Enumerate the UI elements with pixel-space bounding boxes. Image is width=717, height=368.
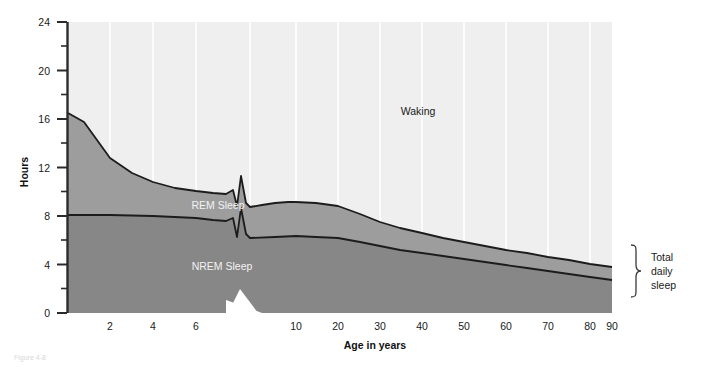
x-tick-label-70: 70 (542, 320, 554, 332)
bracket-label-line2: daily (651, 265, 673, 277)
region-label-nrem: NREM Sleep (192, 260, 253, 272)
y-tick-label-4: 4 (44, 259, 50, 271)
bracket-label-line1: Total (651, 251, 673, 263)
x-tick-label-6: 6 (193, 320, 199, 332)
region-label-waking: Waking (401, 105, 436, 117)
y-axis-major-ticks (57, 22, 67, 313)
y-tick-label-24: 24 (38, 16, 50, 28)
y-tick-label-12: 12 (38, 162, 50, 174)
y-tick-label-20: 20 (38, 65, 50, 77)
sleep-lifespan-figure: 24 20 16 12 8 4 0 Hours 2 4 6 10 20 30 4… (0, 0, 717, 368)
x-tick-label-30: 30 (374, 320, 386, 332)
x-tick-label-20: 20 (332, 320, 344, 332)
x-tick-label-40: 40 (416, 320, 428, 332)
region-label-rem: REM Sleep (191, 199, 244, 211)
x-tick-label-4: 4 (150, 320, 156, 332)
x-tick-label-90: 90 (606, 320, 618, 332)
y-axis-title: Hours (18, 157, 30, 187)
x-tick-label-60: 60 (500, 320, 512, 332)
bracket-label-line3: sleep (651, 279, 676, 291)
x-tick-label-2: 2 (107, 320, 113, 332)
y-tick-label-16: 16 (38, 113, 50, 125)
x-tick-label-80: 80 (584, 320, 596, 332)
y-tick-label-8: 8 (44, 210, 50, 222)
total-daily-sleep-bracket (631, 245, 641, 297)
figure-caption: Figure 4-8 (14, 354, 46, 362)
chart-svg: 24 20 16 12 8 4 0 Hours 2 4 6 10 20 30 4… (0, 0, 717, 368)
x-tick-label-10: 10 (290, 320, 302, 332)
x-tick-label-50: 50 (458, 320, 470, 332)
x-axis-title: Age in years (344, 339, 407, 351)
y-tick-label-0: 0 (44, 307, 50, 319)
